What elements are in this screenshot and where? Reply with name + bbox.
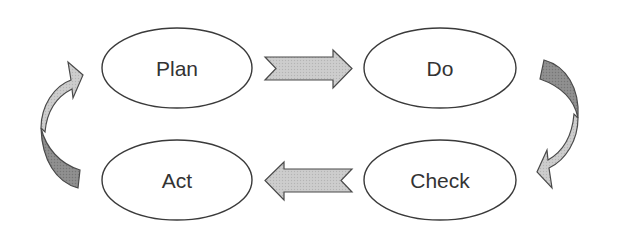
node-plan: Plan: [102, 28, 252, 108]
check-label: Check: [410, 169, 470, 192]
arrow-right-icon: [265, 50, 352, 88]
node-do: Do: [364, 28, 516, 108]
curved-arrow-down-icon: [537, 60, 578, 188]
plan-label: Plan: [156, 57, 198, 80]
node-act: Act: [102, 140, 252, 220]
node-check: Check: [364, 140, 516, 220]
do-label: Do: [427, 57, 454, 80]
pdca-diagram: Plan Do Check Act: [0, 0, 618, 233]
act-label: Act: [162, 169, 193, 192]
curved-arrow-up-icon: [41, 62, 83, 188]
arrow-left-icon: [265, 162, 352, 200]
